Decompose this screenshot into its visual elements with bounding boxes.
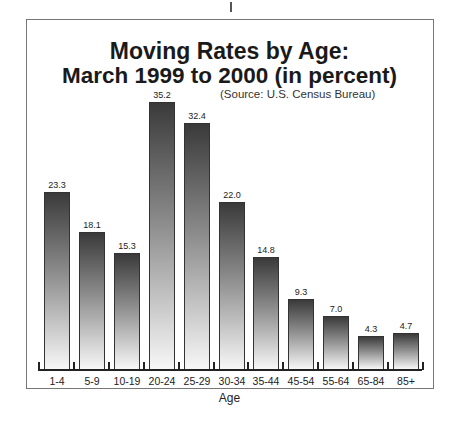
x-tick-label: 10-19: [107, 375, 147, 387]
x-tick-label: 5-9: [72, 375, 112, 387]
x-axis-tick: [247, 362, 249, 370]
bar-value-label: 4.3: [351, 324, 391, 334]
x-tick-label: 55-64: [316, 375, 356, 387]
bar-value-label: 4.7: [386, 321, 426, 331]
bar-value-label: 7.0: [316, 304, 356, 314]
x-axis-tick: [282, 362, 284, 370]
x-axis-tick: [352, 362, 354, 370]
x-tick-label: 85+: [386, 375, 426, 387]
chart-title: Moving Rates by Age:: [0, 38, 459, 64]
x-axis-tick: [178, 362, 180, 370]
x-tick-label: 1-4: [37, 375, 77, 387]
x-axis-tick: [108, 362, 110, 370]
bar-value-label: 9.3: [281, 287, 321, 297]
bar-value-label: 22.0: [212, 190, 252, 200]
x-axis-tick: [422, 362, 424, 370]
x-axis-tick: [387, 362, 389, 370]
x-axis-label: Age: [0, 391, 459, 405]
bar: [393, 333, 419, 369]
bar: [114, 253, 140, 369]
bar-value-label: 35.2: [142, 90, 182, 100]
x-tick-label: 45-54: [281, 375, 321, 387]
top-mark: [230, 2, 232, 12]
x-axis-tick: [73, 362, 75, 370]
bar-value-label: 14.8: [246, 245, 286, 255]
x-axis-tick: [38, 362, 40, 370]
x-axis: [38, 369, 422, 371]
x-axis-tick: [213, 362, 215, 370]
bar: [358, 336, 384, 369]
bar: [253, 257, 279, 369]
bar: [79, 232, 105, 369]
bar: [288, 299, 314, 369]
bar: [149, 102, 175, 369]
bar: [184, 123, 210, 369]
x-tick-label: 25-29: [177, 375, 217, 387]
bar-value-label: 23.3: [37, 180, 77, 190]
x-tick-label: 65-84: [351, 375, 391, 387]
bar: [323, 316, 349, 369]
bar-value-label: 18.1: [72, 220, 112, 230]
bar: [44, 192, 70, 369]
x-axis-tick: [317, 362, 319, 370]
bar-value-label: 32.4: [177, 111, 217, 121]
x-axis-tick: [143, 362, 145, 370]
x-tick-label: 35-44: [246, 375, 286, 387]
x-tick-label: 20-24: [142, 375, 182, 387]
bar-value-label: 15.3: [107, 241, 147, 251]
chart-subtitle: March 1999 to 2000 (in percent): [0, 63, 459, 89]
bar: [219, 202, 245, 369]
chart-source: (Source: U.S. Census Bureau): [220, 88, 375, 100]
